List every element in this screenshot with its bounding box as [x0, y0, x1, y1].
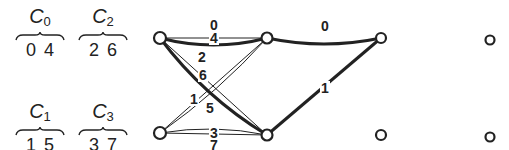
node-m1-icon — [262, 130, 273, 141]
graph-diagram: 0426153701 — [0, 0, 509, 150]
node-f1-icon — [486, 133, 495, 142]
node-r1-icon — [376, 130, 386, 140]
node-f0-icon — [486, 36, 495, 45]
edge-label: 7 — [210, 137, 218, 150]
node-l1-icon — [154, 127, 166, 139]
edge-label: 2 — [198, 49, 206, 65]
edge-0 — [267, 38, 381, 44]
node-m0-icon — [262, 33, 273, 44]
node-l0-icon — [154, 32, 166, 44]
edge-label: 1 — [190, 91, 198, 107]
edge-label: 1 — [321, 80, 329, 96]
edge-label: 6 — [199, 67, 207, 83]
edge-label: 0 — [321, 18, 329, 34]
node-r0-icon — [376, 33, 386, 43]
edge-label: 5 — [206, 100, 214, 116]
edge-label: 4 — [210, 30, 218, 46]
